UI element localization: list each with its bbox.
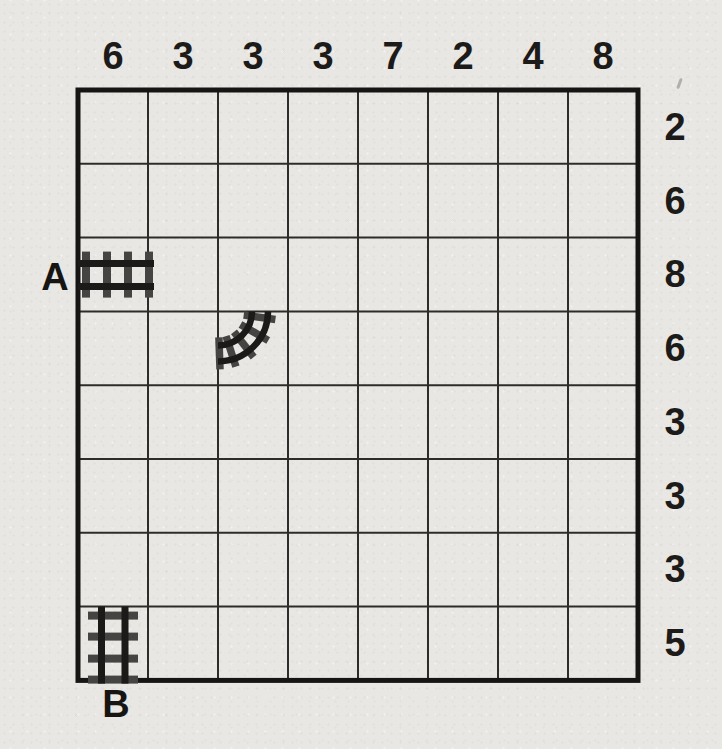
track-tie (124, 252, 132, 298)
grid-lines (78, 90, 638, 680)
track-piece-straight-horizontal (78, 252, 154, 298)
track-tie (82, 252, 90, 298)
track-rail (78, 283, 154, 290)
track-tie (88, 612, 138, 620)
track-tie (88, 655, 138, 663)
track-tie (88, 676, 138, 684)
track-rail (122, 607, 129, 684)
track-rail (78, 260, 154, 267)
track-piece-straight-vertical (88, 607, 138, 684)
track-tie (145, 252, 153, 298)
track-piece-curve (218, 311, 275, 369)
track-rail (98, 607, 105, 684)
track-tie (88, 633, 138, 641)
puzzle-board (0, 0, 722, 749)
puzzle-page: 6 3 3 3 7 2 4 8 2 6 8 6 3 3 3 5 A B (0, 0, 722, 749)
track-tie (103, 252, 111, 298)
